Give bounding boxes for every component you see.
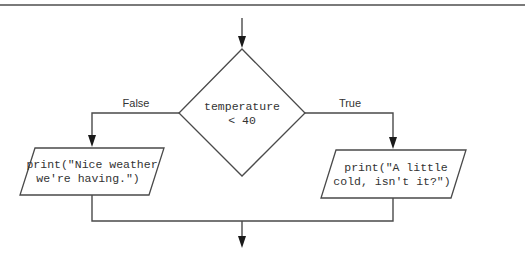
false-output-line-1: print("Nice weather (26, 158, 157, 171)
false-branch-label: False (123, 97, 150, 109)
false-output-line-2: we're having.") (36, 172, 140, 185)
decision-line-1: temperature (204, 100, 280, 113)
entry-arrow (238, 18, 246, 48)
true-branch-label: True (339, 97, 361, 109)
arrowhead-icon (88, 135, 96, 147)
true-output-line-1: print("A little (344, 161, 448, 174)
arrowhead-icon (238, 36, 246, 48)
true-output-parallelogram: print("A little cold, isn't it?") (321, 150, 466, 198)
false-output-parallelogram: print("Nice weather we're having.") (20, 148, 164, 195)
decision-diamond: temperature < 40 (179, 49, 305, 176)
merge-connector (92, 195, 393, 248)
true-output-line-2: cold, isn't it?") (333, 175, 450, 188)
flowchart-diagram: temperature < 40 False True print("Nice … (0, 0, 525, 263)
decision-line-2: < 40 (228, 114, 256, 127)
arrowhead-icon (389, 137, 397, 149)
false-branch-connector: False (88, 97, 179, 147)
true-branch-connector: True (305, 97, 397, 149)
arrowhead-icon (238, 236, 246, 248)
